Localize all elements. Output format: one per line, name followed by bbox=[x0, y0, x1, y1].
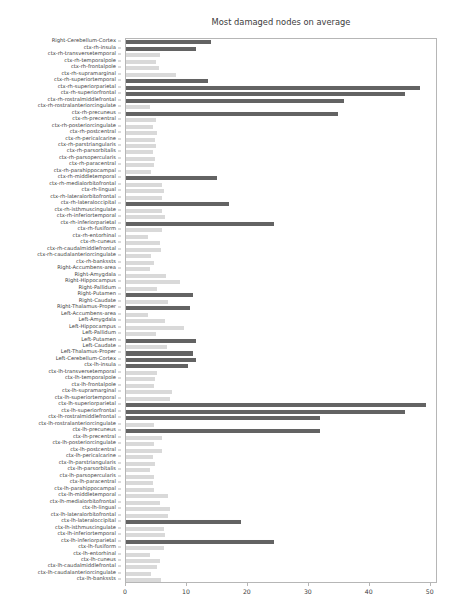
bar bbox=[126, 196, 162, 200]
y-axis-tick-mark bbox=[118, 300, 121, 301]
y-axis-tick-mark bbox=[118, 54, 121, 55]
y-axis-tick-mark bbox=[118, 209, 121, 210]
y-axis-tick-label: ctx-lh-caudalmiddlefrontal bbox=[48, 564, 116, 569]
bar bbox=[126, 202, 229, 206]
bar bbox=[126, 540, 274, 544]
y-axis-tick-label: ctx-rh-inferiorparietal bbox=[60, 220, 116, 225]
bar bbox=[126, 300, 168, 304]
y-axis-tick-mark bbox=[118, 501, 121, 502]
bar bbox=[126, 53, 160, 57]
y-axis-tick-label: ctx-rh-parsorbitalis bbox=[67, 149, 116, 154]
y-axis-tick-label: Left-Cerebellum-Cortex bbox=[56, 356, 116, 361]
bar bbox=[126, 73, 176, 77]
y-axis-tick-mark bbox=[118, 41, 121, 42]
y-axis-tick-label: Left-Hippocampus bbox=[69, 324, 116, 329]
y-axis-tick-label: ctx-rh-posteriorcingulate bbox=[52, 123, 116, 128]
x-axis-tick-label: 40 bbox=[365, 588, 373, 595]
y-axis-tick-label: ctx-rh-rostralanteriorcingulate bbox=[38, 103, 116, 108]
y-axis-tick-mark bbox=[118, 423, 121, 424]
y-axis-tick-label: Right-Caudate bbox=[79, 298, 116, 303]
y-axis-tick-label: ctx-rh-lateralorbitofrontal bbox=[50, 194, 116, 199]
y-axis-tick-mark bbox=[118, 73, 121, 74]
y-axis-tick-mark bbox=[118, 229, 121, 230]
y-axis-tick-mark bbox=[118, 559, 121, 560]
y-axis-tick-mark bbox=[118, 391, 121, 392]
bar bbox=[126, 546, 164, 550]
bar bbox=[126, 222, 274, 226]
bar bbox=[126, 150, 153, 154]
bar bbox=[126, 533, 165, 537]
y-axis-tick-label: ctx-lh-lingual bbox=[82, 506, 116, 511]
bar bbox=[126, 514, 168, 518]
y-axis-tick-mark bbox=[118, 190, 121, 191]
y-axis-tick-label: ctx-lh-superiorparietal bbox=[58, 402, 116, 407]
y-axis-tick-mark bbox=[118, 566, 121, 567]
y-axis-tick-label: ctx-lh-middletemporal bbox=[58, 493, 116, 498]
bar bbox=[126, 105, 150, 109]
y-axis-tick-mark bbox=[118, 346, 121, 347]
bar bbox=[126, 47, 196, 51]
bar bbox=[126, 364, 188, 368]
y-axis-tick-mark bbox=[118, 261, 121, 262]
bar bbox=[126, 241, 160, 245]
y-axis-tick-label: ctx-rh-caudalanteriorcingulate bbox=[37, 253, 116, 258]
y-axis-tick-mark bbox=[118, 151, 121, 152]
y-axis-tick-label: ctx-rh-transversetemporal bbox=[48, 52, 116, 57]
y-axis-tick-mark bbox=[118, 352, 121, 353]
y-axis-tick-mark bbox=[118, 138, 121, 139]
y-axis-tick-label: ctx-lh-insula bbox=[84, 363, 116, 368]
y-axis-tick-mark bbox=[118, 313, 121, 314]
y-axis-tick-label: ctx-rh-lateraloccipital bbox=[61, 201, 116, 206]
y-axis-tick-label: Right-Accumbens-area bbox=[57, 266, 116, 271]
bar bbox=[126, 410, 405, 414]
y-axis-tick-mark bbox=[118, 417, 121, 418]
y-axis-tick-label: ctx-rh-parstriangularis bbox=[58, 142, 116, 147]
bar bbox=[126, 79, 208, 83]
bar bbox=[126, 131, 157, 135]
bar bbox=[126, 475, 154, 479]
y-axis-tick-label: ctx-rh-paracentral bbox=[69, 162, 116, 167]
y-axis-tick-mark bbox=[118, 294, 121, 295]
y-axis-tick-label: ctx-lh-parsopercularis bbox=[60, 473, 116, 478]
y-axis-tick-mark bbox=[118, 365, 121, 366]
y-axis-tick-label: Left-Caudate bbox=[83, 343, 116, 348]
y-axis-tick-mark bbox=[118, 508, 121, 509]
bar bbox=[126, 481, 153, 485]
y-axis-tick-label: ctx-rh-precentral bbox=[72, 116, 116, 121]
bar bbox=[126, 351, 193, 355]
bar bbox=[126, 40, 211, 44]
y-axis-tick-mark bbox=[118, 248, 121, 249]
y-axis-tick-mark bbox=[118, 397, 121, 398]
bar bbox=[126, 144, 156, 148]
y-axis-tick-mark bbox=[118, 132, 121, 133]
y-axis-tick-label: ctx-rh-isthmuscingulate bbox=[54, 207, 116, 212]
y-axis-tick-mark bbox=[118, 378, 121, 379]
y-axis-tick-mark bbox=[118, 125, 121, 126]
bar bbox=[126, 377, 155, 381]
y-axis-tick-mark bbox=[118, 358, 121, 359]
y-axis-tick-mark bbox=[118, 404, 121, 405]
bar bbox=[126, 176, 217, 180]
y-axis-tick-label: ctx-lh-superiortemporal bbox=[55, 395, 116, 400]
y-axis-tick-mark bbox=[118, 462, 121, 463]
x-axis: 01020304050 bbox=[125, 583, 437, 607]
y-axis-labels: Right-Cerebellum-Cortexctx-rh-insulactx-… bbox=[0, 38, 121, 583]
y-axis-tick-label: ctx-rh-bankssts bbox=[76, 259, 116, 264]
bar bbox=[126, 397, 170, 401]
y-axis-tick-label: ctx-lh-lateralorbitofrontal bbox=[51, 512, 116, 517]
y-axis-tick-mark bbox=[118, 222, 121, 223]
chart-figure: Most damaged nodes on average Right-Cere… bbox=[0, 0, 462, 612]
bar bbox=[126, 157, 155, 161]
y-axis-tick-mark bbox=[118, 410, 121, 411]
y-axis-tick-label: ctx-lh-fusiform bbox=[78, 544, 116, 549]
y-axis-tick-label: ctx-lh-transversetemporal bbox=[48, 369, 116, 374]
bar bbox=[126, 267, 150, 271]
y-axis-tick-mark bbox=[118, 86, 121, 87]
y-axis-tick-mark bbox=[118, 268, 121, 269]
y-axis-tick-label: ctx-rh-medialorbitofrontal bbox=[49, 181, 116, 186]
y-axis-tick-mark bbox=[118, 333, 121, 334]
y-axis-tick-mark bbox=[118, 430, 121, 431]
bar bbox=[126, 137, 155, 141]
bar bbox=[126, 254, 151, 258]
bar bbox=[126, 326, 184, 330]
